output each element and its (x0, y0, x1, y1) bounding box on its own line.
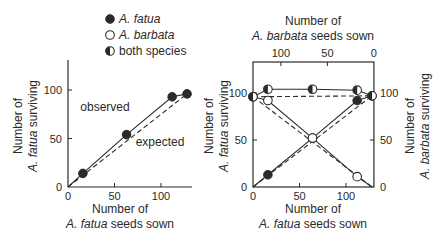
half-filled-circle-marker-icon (308, 85, 317, 94)
open-circle-marker-icon (308, 134, 317, 143)
x2-tick-label: 100 (272, 47, 290, 59)
y2-tick-label: 50 (380, 134, 392, 146)
x-tick-label: 100 (152, 190, 170, 202)
legend-label: both species (119, 44, 186, 58)
y2-tick-label: 0 (380, 181, 386, 193)
filled-circle-marker-icon (79, 169, 88, 178)
open-circle-marker-icon (264, 96, 273, 105)
annotation-expected: expected (136, 135, 185, 149)
plot-frame (253, 62, 374, 187)
y-tick-label: 0 (241, 181, 247, 193)
y-axis-label-line2: A. fatua surviving (26, 80, 40, 173)
legend-item: both species (106, 44, 187, 58)
legend: A. fatuaA. barbataboth species (106, 12, 187, 58)
x2-tick-label: 0 (371, 47, 377, 59)
legend-label: A. fatua (118, 12, 161, 26)
x2-axis-label-line2: A. barbata seeds sown (251, 29, 374, 43)
filled-circle-marker-icon (122, 130, 131, 139)
open-circle-marker-icon (353, 172, 362, 181)
x-axis-label-line1: Number of (285, 202, 342, 216)
half-filled-circle-marker-icon (249, 92, 258, 101)
both-species-expected-line (253, 96, 372, 97)
filled-circle-marker-icon (264, 170, 273, 179)
figure: A. fatuaA. barbataboth species0501000501… (0, 0, 441, 243)
half-filled-circle-marker-icon (264, 85, 273, 94)
x-tick-label: 50 (293, 190, 305, 202)
x-tick-label: 0 (250, 190, 256, 202)
y-tick-label: 0 (56, 181, 62, 193)
legend-item: A. barbata (106, 28, 175, 42)
annotation-observed: observed (80, 100, 129, 114)
y2-tick-label: 100 (380, 87, 398, 99)
half-filled-circle-marker-icon (353, 86, 362, 95)
filled-circle-marker-icon (183, 90, 192, 99)
x2-axis-label-line1: Number of (285, 14, 342, 28)
filled-circle-marker-icon (106, 15, 115, 24)
chart-canvas: A. fatuaA. barbataboth species0501000501… (0, 0, 441, 243)
x-tick-label: 100 (337, 190, 355, 202)
x-axis-label-line2: A. fatua seeds sown (258, 217, 367, 231)
y-tick-label: 100 (44, 84, 62, 96)
left-chart: 050100050100observedexpectedNumber ofA. … (11, 60, 192, 231)
y-tick-label: 50 (50, 133, 62, 145)
filled-circle-marker-icon (353, 96, 362, 105)
x-tick-label: 0 (65, 190, 71, 202)
y-axis-label-line1: Number of (202, 97, 216, 154)
legend-label: A. barbata (118, 28, 175, 42)
y-tick-label: 50 (235, 134, 247, 146)
y2-axis-label-line2: A. barbata surviving (418, 73, 432, 180)
legend-item: A. fatua (106, 12, 161, 26)
x-tick-label: 50 (108, 190, 120, 202)
half-filled-circle-marker-icon (368, 92, 377, 101)
filled-circle-marker-icon (168, 92, 177, 101)
open-circle-marker-icon (106, 31, 115, 40)
y-axis-label-line1: Number of (11, 97, 25, 154)
y2-axis-label-line1: Number of (403, 97, 417, 154)
x2-tick-label: 50 (321, 47, 333, 59)
y-axis-label-line2: A. fatua surviving (217, 80, 231, 173)
y-tick-label: 100 (229, 87, 247, 99)
x-axis-label-line2: A. fatua seeds sown (65, 217, 174, 231)
right-chart: 050100100500050100050100Number ofA. fatu… (202, 14, 432, 231)
x-axis-label-line1: Number of (92, 202, 149, 216)
half-filled-circle-marker-icon (106, 47, 115, 56)
